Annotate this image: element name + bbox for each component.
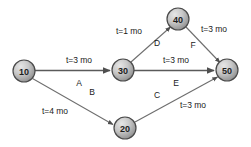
node-40[interactable]: 40 [167, 8, 189, 30]
node-30[interactable]: 30 [112, 59, 134, 81]
edge-F-duration-label: t=3 mo [201, 24, 227, 34]
edge-B-line[interactable] [33, 79, 114, 125]
node-20[interactable]: 20 [114, 117, 136, 139]
edge-E-duration-label: t=3 mo [163, 55, 189, 65]
node-10-label: 10 [19, 67, 29, 77]
edge-A-activity-label: A [76, 78, 82, 88]
edge-B-activity-label: B [89, 87, 95, 97]
edge-E-activity-label: E [173, 78, 179, 88]
edge-F-activity-label: F [190, 40, 195, 50]
edge-D-activity-label: D [154, 38, 160, 48]
node-10[interactable]: 10 [13, 60, 35, 82]
edge-D-duration-label: t=1 mo [116, 26, 142, 36]
edge-B-duration-label: t=4 mo [42, 106, 68, 116]
node-50-label: 50 [222, 66, 232, 76]
network-diagram: 10 20 30 40 50 t=3 mo A t=4 mo [0, 0, 251, 147]
network-diagram-canvas: 10 20 30 40 50 t=3 mo A t=4 mo [0, 0, 251, 147]
edge-A-duration-label: t=3 mo [66, 55, 92, 65]
node-50[interactable]: 50 [216, 59, 238, 81]
edge-C-duration-label: t=3 mo [180, 100, 206, 110]
edge-C-activity-label: C [154, 90, 160, 100]
node-40-label: 40 [173, 15, 183, 25]
node-30-label: 30 [118, 66, 128, 76]
node-20-label: 20 [120, 124, 130, 134]
